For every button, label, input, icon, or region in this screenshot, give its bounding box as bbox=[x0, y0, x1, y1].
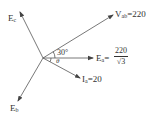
angle-arc-theta bbox=[50, 58, 51, 62]
eb-phasor bbox=[18, 58, 43, 101]
eb-label: Eb bbox=[10, 104, 19, 113]
ia-label: Ia=20 bbox=[82, 75, 102, 84]
phasor-diagram: Ec Eb Vab=220 Ea= 220 √3 Ia=20 30° θ bbox=[0, 0, 157, 124]
ea-fraction: 220 √3 bbox=[114, 47, 128, 66]
angle-30-label: 30° bbox=[57, 49, 68, 57]
ec-phasor bbox=[20, 12, 43, 58]
vab-label: Vab=220 bbox=[115, 10, 146, 19]
angle-theta-label: θ bbox=[56, 58, 59, 65]
ia-phasor bbox=[43, 58, 80, 78]
ea-fraction-numerator: 220 bbox=[114, 47, 128, 57]
ea-fraction-denominator: √3 bbox=[114, 57, 128, 66]
angle-arc-30 bbox=[53, 52, 55, 58]
ea-label: Ea= bbox=[96, 54, 109, 63]
ec-label: Ec bbox=[8, 14, 16, 23]
